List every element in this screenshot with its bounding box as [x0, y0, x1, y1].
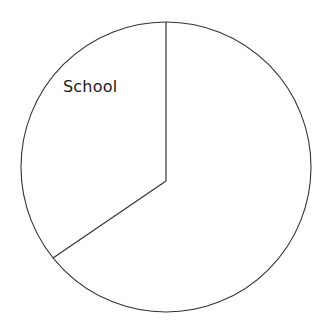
pie-slice-label-school: School: [63, 77, 117, 96]
pie-chart-figure: School: [0, 0, 330, 333]
pie-chart-svg: School: [0, 0, 330, 333]
